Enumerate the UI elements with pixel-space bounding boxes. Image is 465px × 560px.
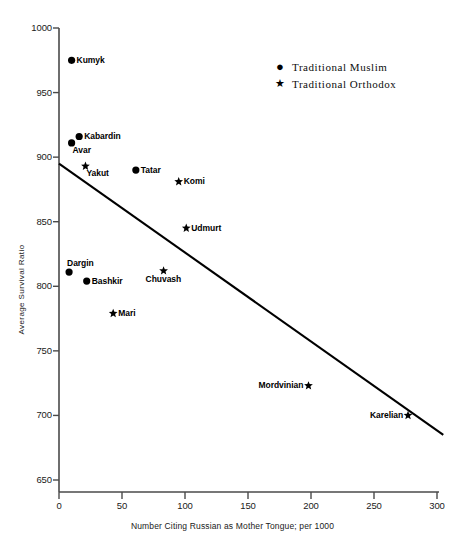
- data-point-circle: [76, 133, 83, 140]
- data-point-circle: [65, 268, 72, 275]
- data-point-label: Avar: [73, 145, 91, 155]
- x-tick-label: 300: [417, 500, 457, 511]
- data-point-label: Dargin: [67, 258, 94, 268]
- legend-label: Traditional Orthodox: [288, 78, 396, 90]
- y-tick-label: 700: [14, 409, 52, 420]
- x-tick-label: 100: [165, 500, 205, 511]
- data-markers: [65, 57, 412, 419]
- legend-item-star: ★Traditional Orthodox: [272, 75, 442, 92]
- x-axis-ticks: [59, 492, 437, 499]
- y-axis-title: Average Survival Ratio: [17, 235, 26, 345]
- data-point-label: Kabardin: [84, 131, 120, 141]
- y-tick-label: 950: [14, 87, 52, 98]
- data-point-circle: [83, 278, 90, 285]
- chart-figure: 6507007508008509009501000 05010015020025…: [0, 0, 465, 560]
- data-point-label: Komi: [184, 176, 205, 186]
- data-point-label: Bashkir: [92, 276, 123, 286]
- x-tick-label: 0: [39, 500, 79, 511]
- data-point-star: [304, 381, 313, 389]
- data-point-label: Tatar: [141, 165, 161, 175]
- data-point-circle: [132, 166, 139, 173]
- data-point-label: Karelian: [370, 410, 403, 420]
- y-tick-label: 750: [14, 345, 52, 356]
- trend-line: [59, 164, 443, 435]
- legend-item-circle: ●Traditional Muslim: [272, 58, 442, 75]
- x-tick-label: 250: [354, 500, 394, 511]
- chart-legend: ●Traditional Muslim★Traditional Orthodox: [272, 58, 442, 92]
- data-point-label: Mari: [118, 308, 135, 318]
- legend-label: Traditional Muslim: [288, 61, 387, 73]
- data-point-label: Yakut: [86, 168, 108, 178]
- x-tick-label: 50: [102, 500, 142, 511]
- x-tick-label: 200: [291, 500, 331, 511]
- star-marker-icon: ★: [272, 78, 288, 89]
- data-point-star: [174, 177, 183, 185]
- caption-fragment: [48, 549, 308, 560]
- data-point-circle: [68, 57, 75, 64]
- x-axis-title: Number Citing Russian as Mother Tongue; …: [0, 521, 465, 531]
- y-tick-label: 850: [14, 216, 52, 227]
- y-axis-ticks: [53, 28, 59, 480]
- data-point-label: Udmurt: [191, 223, 221, 233]
- data-point-label: Kumyk: [77, 55, 105, 65]
- data-point-star: [182, 224, 191, 232]
- x-tick-label: 150: [228, 500, 268, 511]
- data-point-star: [109, 309, 118, 317]
- y-tick-label: 650: [14, 474, 52, 485]
- data-point-label: Mordvinian: [258, 380, 303, 390]
- data-point-label: Chuvash: [146, 274, 182, 284]
- circle-marker-icon: ●: [272, 60, 288, 73]
- y-tick-label: 1000: [14, 22, 52, 33]
- y-tick-label: 900: [14, 151, 52, 162]
